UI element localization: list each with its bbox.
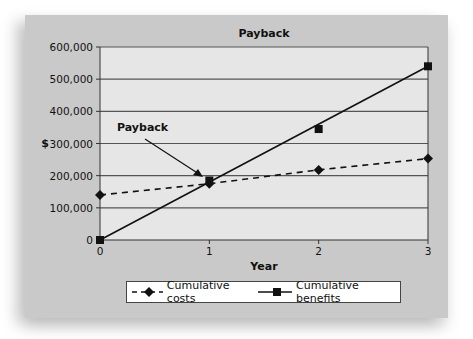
solid-square-icon [257, 287, 292, 297]
y-tick-label: 600,000 [50, 41, 93, 53]
x-tick-label: 1 [206, 245, 213, 257]
x-tick-label: 2 [315, 245, 322, 257]
y-tick-label: 400,000 [50, 105, 93, 117]
y-tick-label: 300,000 [50, 138, 93, 150]
legend-item-costs: Cumulative costs [131, 279, 251, 305]
y-tick-label: 500,000 [50, 73, 93, 85]
x-tick-label: 0 [97, 245, 104, 257]
legend-label-benefits: Cumulative benefits [296, 279, 394, 305]
x-tick-label: 3 [425, 245, 432, 257]
payback-annotation-label: Payback [117, 121, 169, 134]
square-marker-icon [96, 236, 104, 244]
legend-item-benefits: Cumulative benefits [257, 279, 394, 305]
square-marker-icon [205, 176, 213, 184]
square-marker-icon [424, 62, 432, 70]
y-axis-ticks: 0100,000200,000300,000400,000500,000600,… [50, 41, 100, 246]
square-marker-icon [315, 125, 323, 133]
y-tick-label: 200,000 [50, 170, 93, 182]
y-tick-label: 100,000 [50, 202, 93, 214]
y-tick-label: 0 [86, 234, 93, 246]
x-axis-ticks: 0123 [97, 240, 432, 257]
y-axis-label: $ [41, 137, 49, 150]
x-axis-label: Year [249, 260, 278, 273]
chart-title: Payback [238, 27, 290, 40]
dashed-diamond-icon [131, 287, 163, 297]
chart-legend: Cumulative costs Cumulative benefits [126, 281, 401, 303]
legend-label-costs: Cumulative costs [167, 279, 251, 305]
